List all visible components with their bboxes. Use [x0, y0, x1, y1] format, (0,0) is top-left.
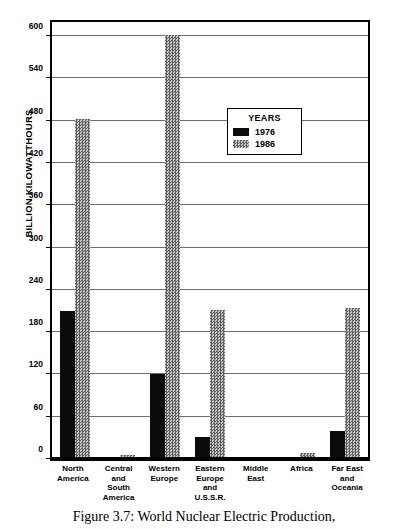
legend-entry-1976: 1976 — [233, 127, 296, 137]
bar-1986 — [75, 119, 90, 459]
category-label: WesternEurope — [141, 464, 187, 502]
category-label-line: Europe — [141, 474, 187, 484]
bar-group — [323, 22, 368, 459]
category-label-line: and — [187, 483, 233, 493]
bar-1986 — [345, 308, 360, 459]
category-label-line: Africa — [279, 464, 325, 474]
category-label-line: South — [96, 483, 142, 493]
bar-group — [97, 22, 142, 459]
category-label-line: America — [50, 474, 96, 484]
category-label: MiddleEast — [233, 464, 279, 502]
y-tick-label-120: 120 — [29, 359, 43, 369]
bar-group — [142, 22, 187, 459]
plot-area: 060120180240300360420480540600 YEARS 197… — [50, 20, 370, 461]
legend-label-1986: 1986 — [255, 139, 275, 149]
figure-container: BILLION KILOWATTHOURS 060120180240300360… — [0, 0, 408, 529]
legend-label-1976: 1976 — [255, 127, 275, 137]
category-label-line: Central — [96, 464, 142, 474]
y-tick-label-0: 0 — [38, 444, 43, 454]
bar-1976 — [150, 374, 165, 459]
y-tick-label-60: 60 — [34, 402, 43, 412]
y-tick-label-600: 600 — [29, 21, 43, 31]
bar-group — [187, 22, 232, 459]
bar-1986 — [165, 35, 180, 459]
y-tick-label-360: 360 — [29, 190, 43, 200]
bar-1986 — [210, 310, 225, 459]
category-label-line: Far East — [324, 464, 370, 474]
category-label-line: and — [324, 474, 370, 484]
category-label-line: Middle — [233, 464, 279, 474]
legend-swatch-1986 — [233, 140, 249, 148]
y-axis-title: BILLION KILOWATTHOURS — [23, 74, 34, 274]
category-label-line: East — [233, 474, 279, 484]
category-label-line: Europe — [187, 474, 233, 484]
bar-1976 — [195, 437, 210, 459]
category-label-line: Oceania — [324, 483, 370, 493]
category-label: CentralandSouthAmerica — [96, 464, 142, 502]
y-tick-label-180: 180 — [29, 317, 43, 327]
bar-1976 — [330, 431, 345, 459]
bar-group — [278, 22, 323, 459]
category-label-line: America — [96, 493, 142, 503]
category-label: Far EastandOceania — [324, 464, 370, 502]
category-label-line: U.S.S.R. — [187, 493, 233, 503]
legend-box: YEARS 1976 1986 — [227, 108, 302, 155]
y-tick-label-300: 300 — [29, 233, 43, 243]
category-label: Africa — [279, 464, 325, 502]
y-tick-label-480: 480 — [29, 106, 43, 116]
legend-title: YEARS — [233, 113, 296, 123]
category-label-line: and — [96, 474, 142, 484]
category-label-line: Western — [141, 464, 187, 474]
x-axis-baseline — [52, 457, 368, 459]
y-tick-label-540: 540 — [29, 63, 43, 73]
bar-layer — [52, 22, 368, 459]
category-label: EasternEuropeandU.S.S.R. — [187, 464, 233, 502]
bar-group — [52, 22, 97, 459]
category-label-line: Eastern — [187, 464, 233, 474]
figure-caption: Figure 3.7: World Nuclear Electric Produ… — [0, 509, 408, 525]
bar-group — [233, 22, 278, 459]
y-tick-label-240: 240 — [29, 275, 43, 285]
legend-swatch-1976 — [233, 128, 249, 136]
bar-1976 — [60, 311, 75, 459]
y-tick-label-420: 420 — [29, 148, 43, 158]
category-axis-labels: NorthAmericaCentralandSouthAmericaWester… — [50, 464, 370, 502]
category-label-line: North — [50, 464, 96, 474]
category-label: NorthAmerica — [50, 464, 96, 502]
legend-entry-1986: 1986 — [233, 139, 296, 149]
